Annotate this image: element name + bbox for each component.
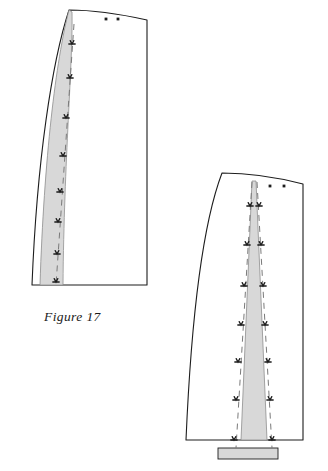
- dart-arrow-marker: [269, 437, 275, 440]
- pattern-piece-left: [32, 10, 147, 285]
- illustration-canvas: Figure 17: [0, 0, 328, 471]
- dart-base-tab: [218, 448, 278, 459]
- dart-arrow-marker: [262, 322, 268, 325]
- pattern-piece-right: [186, 173, 303, 459]
- notch-dot: [105, 18, 108, 21]
- pattern-diagram: Figure 17: [0, 0, 328, 471]
- dart-wedge-right: [241, 181, 267, 440]
- notch-dots-left: [105, 18, 120, 21]
- dart-arrow-marker: [265, 359, 271, 362]
- notch-dot: [269, 185, 272, 188]
- dart-arrow-marker: [233, 397, 239, 400]
- notch-dots-right: [269, 185, 286, 188]
- dart-arrow-marker: [235, 359, 241, 362]
- notch-dot: [117, 18, 120, 21]
- notch-dot: [283, 185, 286, 188]
- dart-arrow-marker: [267, 397, 273, 400]
- dart-wedge-left: [40, 10, 72, 285]
- figure-caption: Figure 17: [43, 309, 102, 324]
- dart-arrow-marker: [238, 322, 244, 325]
